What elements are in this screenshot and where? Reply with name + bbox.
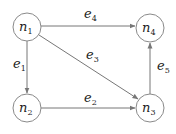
- node-n3: n3: [136, 94, 164, 122]
- node-n1: n1: [13, 13, 41, 41]
- edge-label-e2: e2: [84, 90, 97, 107]
- edge-label-e5: e5: [157, 58, 170, 75]
- edge-label-e3: e3: [86, 47, 99, 64]
- graph-diagram: n1 n2 n3 n4 e1 e2 e3 e4 e5: [0, 0, 176, 134]
- node-n4: n4: [136, 14, 164, 42]
- edge-label-e1: e1: [13, 56, 26, 73]
- node-n2: n2: [13, 94, 41, 122]
- edge-label-e4: e4: [84, 6, 97, 23]
